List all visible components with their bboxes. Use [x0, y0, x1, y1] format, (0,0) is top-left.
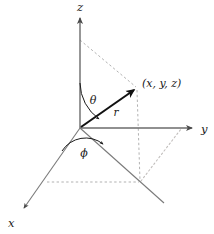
- guide-y-coordinate: [141, 129, 181, 181]
- theta-label: θ: [90, 94, 97, 107]
- x-axis: [24, 128, 80, 208]
- spherical-coordinates-svg: z y x θ ϕ r (x, y, z): [0, 0, 214, 234]
- point-label: (x, y, z): [142, 77, 181, 90]
- spherical-coordinates-figure: z y x θ ϕ r (x, y, z): [0, 0, 214, 234]
- phi-label: ϕ: [80, 147, 88, 160]
- guide-point-to-plane: [137, 90, 140, 181]
- y-axis-label: y: [200, 122, 208, 136]
- radius-label: r: [113, 106, 119, 118]
- axes-group: [24, 18, 192, 208]
- x-axis-label: x: [8, 216, 15, 230]
- z-axis-label: z: [76, 0, 84, 14]
- guide-z-to-point: [80, 40, 136, 87]
